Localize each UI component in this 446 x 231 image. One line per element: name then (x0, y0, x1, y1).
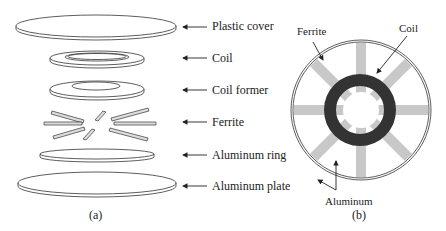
aluminum-ring-disc (40, 149, 154, 162)
label-ferrite: Ferrite (212, 116, 244, 128)
ferrite-bars (44, 108, 156, 141)
label-arrows (183, 27, 207, 186)
caption-b: (b) (352, 209, 366, 221)
top-view (291, 40, 431, 180)
label-plastic-cover: Plastic cover (212, 20, 274, 32)
aluminum-plate-disc (18, 172, 176, 197)
label-aluminum-ring: Aluminum ring (212, 149, 286, 161)
label-aluminum-plate: Aluminum plate (212, 180, 290, 192)
label-b-aluminum: Aluminum (325, 195, 373, 207)
label-coil: Coil (212, 52, 233, 64)
label-b-ferrite: Ferrite (297, 25, 326, 37)
coil-former-disc (50, 81, 144, 100)
ferrite-spokes (294, 43, 428, 177)
label-b-coil: Coil (399, 22, 418, 34)
plastic-cover-disc (16, 15, 176, 40)
label-coil-former: Coil former (212, 84, 268, 96)
caption-a: (a) (89, 209, 102, 221)
coil-disc (50, 51, 144, 68)
